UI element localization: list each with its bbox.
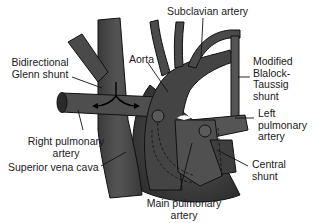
label-lpa-line1: Left <box>258 108 307 120</box>
rpa-open-end <box>57 93 67 113</box>
label-cs-line1: Central <box>252 159 286 171</box>
anatomy-diagram: Subclavian artery Aorta Bidirectional Gl… <box>0 0 316 223</box>
label-glenn-line2: Glenn shunt <box>8 69 72 81</box>
label-glenn-line1: Bidirectional <box>8 57 72 69</box>
anastomosis-lpa <box>199 125 211 137</box>
label-rpa-line2: artery <box>26 148 106 160</box>
label-mbt-line3: Taussig <box>253 79 293 91</box>
label-mpa-line1: Main pulmonary <box>142 198 226 210</box>
label-central-shunt: Central shunt <box>252 159 286 182</box>
label-lpa-line3: artery <box>258 131 307 143</box>
anastomosis-aorta <box>152 110 164 122</box>
aortic-branch-2 <box>174 22 184 68</box>
label-rpa-line1: Right pulmonary <box>26 136 106 148</box>
aortic-branch-1 <box>150 20 170 76</box>
label-bidirectional-glenn-shunt: Bidirectional Glenn shunt <box>8 57 72 80</box>
label-superior-vena-cava: Superior vena cava <box>8 162 98 174</box>
label-right-pulmonary-artery: Right pulmonary artery <box>26 136 106 159</box>
label-modified-blalock-taussig-shunt: Modified Blalock- Taussig shunt <box>253 56 293 102</box>
label-left-pulmonary-artery: Left pulmonary artery <box>258 108 307 143</box>
label-cs-line2: shunt <box>252 171 286 183</box>
label-aorta: Aorta <box>129 54 154 66</box>
modified-bt-shunt-tube <box>231 36 239 122</box>
label-mpa-line2: artery <box>142 210 226 222</box>
label-subclavian-artery: Subclavian artery <box>167 6 248 18</box>
label-main-pulmonary-artery: Main pulmonary artery <box>142 198 226 221</box>
label-mbt-line1: Modified <box>253 56 293 68</box>
right-pulmonary-artery <box>62 93 160 117</box>
label-mbt-line4: shunt <box>253 91 293 103</box>
